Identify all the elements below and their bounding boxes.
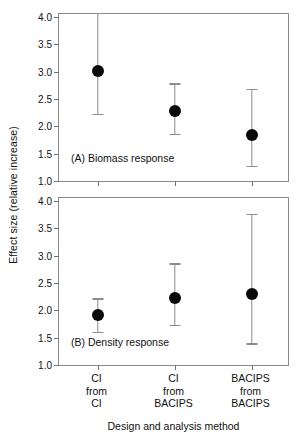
x-axis-category-label-line: BACIPS: [154, 397, 193, 410]
error-bar-lower-cap: [92, 332, 103, 333]
data-point-marker: [92, 309, 104, 321]
x-axis-category-label-line: CI: [86, 372, 107, 385]
error-bar-upper-cap: [169, 263, 180, 264]
y-axis-tick: [54, 201, 59, 202]
x-axis-category-label: BACIPSfromBACIPS: [231, 372, 270, 410]
x-axis-category-label: CIfromBACIPS: [154, 372, 193, 410]
error-bar-upper-cap: [246, 89, 257, 90]
y-axis-tick: [54, 338, 59, 339]
x-axis-tick: [175, 365, 176, 370]
data-point-marker: [92, 65, 104, 77]
panel-b-density-response: 1.01.52.02.53.03.54.0 (B) Density respon…: [58, 197, 289, 366]
y-axis-tick: [54, 72, 59, 73]
y-axis-tick-label: 3.5: [38, 223, 52, 234]
panel-a-biomass-response: 1.01.52.02.53.03.54.0 (A) Biomass respon…: [58, 13, 289, 182]
y-axis-tick: [54, 310, 59, 311]
y-axis-tick-label: 2.5: [38, 94, 52, 105]
y-axis-tick: [54, 228, 59, 229]
figure: Effect size (relative increase) 1.01.52.…: [0, 0, 303, 445]
x-axis-tick: [252, 365, 253, 370]
y-axis-tick: [54, 99, 59, 100]
error-bar-lower-cap: [169, 134, 180, 135]
error-bar-lower-cap: [169, 325, 180, 326]
error-bar-lower-cap: [246, 343, 257, 344]
error-bar-upper-cap: [92, 13, 103, 14]
error-bar-upper-cap: [169, 83, 180, 84]
y-axis-tick: [54, 365, 59, 366]
y-axis-tick: [54, 126, 59, 127]
x-axis-category-label-line: CI: [154, 372, 193, 385]
error-bar: [251, 89, 252, 166]
x-axis-category-label-line: BACIPS: [231, 372, 270, 385]
y-axis-tick-label: 2.0: [38, 305, 52, 316]
panel-b-caption: (B) Density response: [71, 336, 169, 348]
y-axis-tick-label: 4.0: [38, 12, 52, 23]
y-axis-tick: [54, 154, 59, 155]
y-axis-tick-label: 1.0: [38, 360, 52, 371]
x-axis-title: Design and analysis method: [58, 420, 289, 432]
x-axis-tick: [175, 181, 176, 186]
error-bar-upper-cap: [92, 298, 103, 299]
x-axis-tick: [98, 365, 99, 370]
x-axis-category-label-line: BACIPS: [231, 397, 270, 410]
error-bar-lower-cap: [246, 166, 257, 167]
y-axis-tick: [54, 44, 59, 45]
y-axis-tick: [54, 17, 59, 18]
x-axis-category-label-line: from: [154, 385, 193, 398]
data-point-marker: [169, 292, 181, 304]
y-axis-title-container: Effect size (relative increase): [0, 0, 26, 390]
error-bar: [251, 214, 252, 344]
data-point-marker: [246, 129, 258, 141]
error-bar-upper-cap: [246, 214, 257, 215]
y-axis-tick: [54, 283, 59, 284]
x-axis-tick: [98, 181, 99, 186]
x-axis-category-label-line: from: [86, 385, 107, 398]
y-axis-tick: [54, 181, 59, 182]
y-axis-tick-label: 3.0: [38, 66, 52, 77]
x-axis-category-label-line: CI: [86, 397, 107, 410]
y-axis-tick-label: 4.0: [38, 196, 52, 207]
error-bar-lower-cap: [92, 114, 103, 115]
x-axis-category-label-line: from: [231, 385, 270, 398]
y-axis-tick-label: 2.5: [38, 278, 52, 289]
y-axis-tick-label: 1.0: [38, 176, 52, 187]
x-axis-tick: [252, 181, 253, 186]
y-axis-tick-label: 3.0: [38, 250, 52, 261]
x-axis-category-label: CIfromCI: [86, 372, 107, 410]
y-axis-tick: [54, 256, 59, 257]
panel-a-caption: (A) Biomass response: [71, 152, 174, 164]
y-axis-tick-label: 1.5: [38, 148, 52, 159]
y-axis-title: Effect size (relative increase): [7, 126, 19, 264]
y-axis-tick-label: 1.5: [38, 332, 52, 343]
y-axis-tick-label: 2.0: [38, 121, 52, 132]
y-axis-tick-label: 3.5: [38, 39, 52, 50]
error-bar: [97, 13, 98, 114]
data-point-marker: [246, 288, 258, 300]
data-point-marker: [169, 105, 181, 117]
